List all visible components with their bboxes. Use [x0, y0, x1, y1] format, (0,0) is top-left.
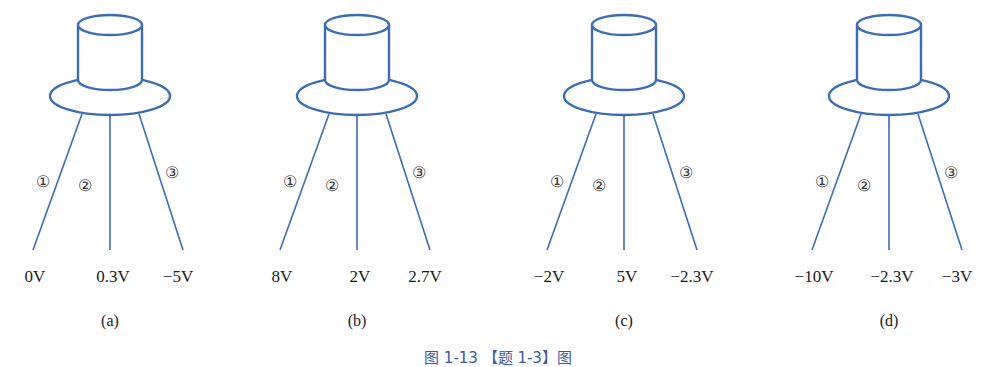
panel-d-pin-marker-2: ②	[857, 176, 871, 195]
panel-a-pin-marker-2: ②	[78, 176, 92, 195]
panel-d-pin-voltage-1: −10V	[795, 267, 834, 287]
panel-d-label: (d)	[880, 312, 899, 330]
transistor-d-leads	[812, 114, 962, 250]
panel-a-pin-voltage-2: 0.3V	[96, 267, 130, 287]
panel-c-pin-marker-2: ②	[592, 176, 606, 195]
panel-c-label: (c)	[615, 312, 633, 330]
transistor-c-leads	[547, 114, 697, 250]
panel-c-pin-voltage-3: −2.3V	[670, 267, 713, 287]
transistor-a-icon	[50, 15, 170, 115]
panel-d-pin-marker-1: ①	[815, 172, 829, 191]
figure-caption: 图 1-13 【题 1-3】图	[424, 346, 572, 367]
panel-d-pin-voltage-3: −3V	[942, 267, 972, 287]
panel-d-pin-voltage-2: −2.3V	[870, 267, 913, 287]
panel-a-pin-voltage-1: 0V	[25, 267, 46, 287]
panel-b-pin-voltage-3: 2.7V	[408, 267, 442, 287]
panel-a-pin-voltage-3: −5V	[163, 267, 193, 287]
panel-b-pin-marker-2: ②	[325, 176, 339, 195]
transistor-c-icon	[564, 15, 684, 115]
panel-b-pin-marker-1: ①	[283, 172, 297, 191]
transistor-b-icon	[297, 15, 417, 115]
transistor-b-leads	[280, 114, 430, 250]
panel-c-pin-marker-3: ③	[679, 163, 693, 182]
panel-a-label: (a)	[101, 312, 119, 330]
panel-c-pin-voltage-1: −2V	[534, 267, 564, 287]
panel-a-pin-marker-1: ①	[36, 172, 50, 191]
panel-d-pin-marker-3: ③	[944, 163, 958, 182]
panel-b-pin-marker-3: ③	[412, 163, 426, 182]
panel-b-pin-voltage-2: 2V	[350, 267, 371, 287]
transistor-d-icon	[829, 15, 949, 115]
panel-c-pin-marker-1: ①	[550, 172, 564, 191]
panel-b-pin-voltage-1: 8V	[272, 267, 293, 287]
panel-a-pin-marker-3: ③	[165, 163, 179, 182]
panel-b-label: (b)	[348, 312, 367, 330]
transistor-a-leads	[33, 114, 183, 250]
panel-c-pin-voltage-2: 5V	[617, 267, 638, 287]
